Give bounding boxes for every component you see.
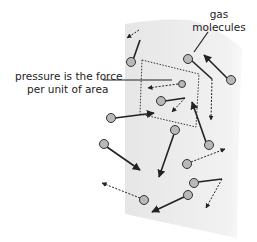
gas-label-line2: molecules <box>192 21 245 33</box>
container-wall <box>125 20 242 239</box>
pressure-label-line2: per unit of area <box>27 83 108 95</box>
pressure-label-line1: pressure is the force <box>15 70 122 82</box>
gas-label-line1: gas <box>210 8 229 20</box>
gas-pressure-diagram: pressure is the force per unit of area g… <box>0 0 257 242</box>
